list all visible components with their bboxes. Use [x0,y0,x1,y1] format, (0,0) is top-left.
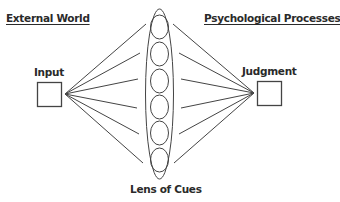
cue-circle-3-icon [151,69,169,93]
cue-circle-4-icon [151,95,169,119]
cue-circles [151,15,169,172]
cue-circle-2-icon [151,42,169,66]
input-box [38,83,62,107]
judgment-box [258,82,282,106]
cue-circle-5-icon [151,121,169,145]
cue-judgment-lines [173,24,254,163]
input-cue-lines [65,24,146,163]
cue-circle-1-icon [151,15,169,39]
lens-ellipse [146,9,174,179]
cue-circle-6-icon [151,148,169,172]
